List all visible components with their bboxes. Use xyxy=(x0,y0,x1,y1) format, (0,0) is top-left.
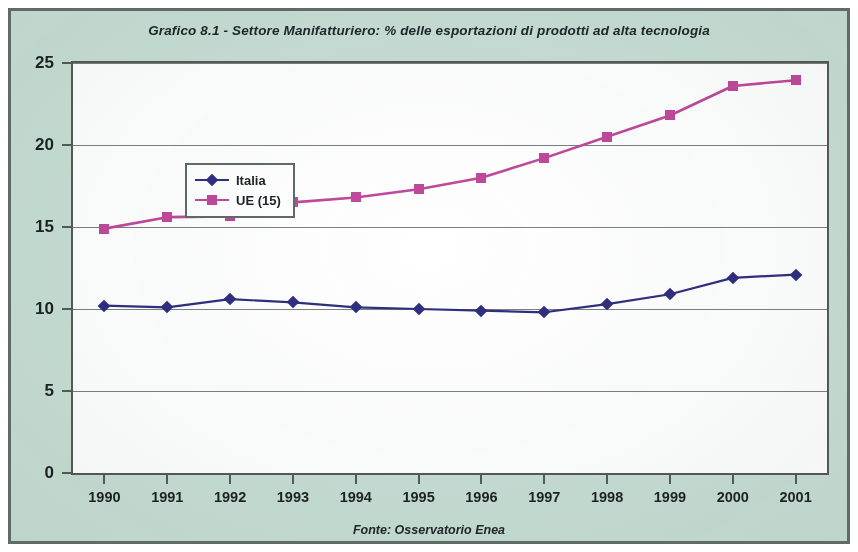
x-tick-label-1999: 1999 xyxy=(654,489,686,505)
y-tick-label-5: 5 xyxy=(8,381,54,401)
y-tick-mark-25 xyxy=(62,62,71,64)
data-point-ue-15-2001 xyxy=(791,75,801,85)
data-point-ue-15-1997 xyxy=(539,153,549,163)
square-marker-icon xyxy=(207,195,217,205)
series-line-italia xyxy=(104,275,795,313)
data-point-ue-15-1996 xyxy=(476,173,486,183)
y-tick-label-10: 10 xyxy=(8,299,54,319)
x-axis: 1990199119921993199419951996199719981999… xyxy=(71,475,829,521)
data-point-ue-15-2000 xyxy=(728,81,738,91)
data-point-ue-15-1990 xyxy=(99,224,109,234)
x-tick-label-1995: 1995 xyxy=(402,489,434,505)
x-tick-label-1992: 1992 xyxy=(214,489,246,505)
y-tick-mark-0 xyxy=(62,472,71,474)
legend-item-ue15[interactable]: UE (15) xyxy=(195,190,281,210)
data-point-ue-15-1991 xyxy=(162,212,172,222)
x-tick-mark-1994 xyxy=(355,475,357,484)
x-tick-label-2000: 2000 xyxy=(717,489,749,505)
data-point-ue-15-1994 xyxy=(351,192,361,202)
plot-inner xyxy=(73,63,827,473)
x-tick-mark-1998 xyxy=(606,475,608,484)
x-tick-mark-1996 xyxy=(480,475,482,484)
x-tick-mark-1993 xyxy=(292,475,294,484)
legend-label-ue15: UE (15) xyxy=(236,193,281,208)
y-tick-label-20: 20 xyxy=(8,135,54,155)
x-tick-label-1994: 1994 xyxy=(340,489,372,505)
y-tick-label-15: 15 xyxy=(8,217,54,237)
x-tick-mark-1995 xyxy=(418,475,420,484)
legend-item-italia[interactable]: Italia xyxy=(195,170,281,190)
source-note: Fonte: Osservatorio Enea xyxy=(11,523,847,537)
y-tick-mark-10 xyxy=(62,308,71,310)
series-lines xyxy=(73,63,827,473)
x-tick-label-2001: 2001 xyxy=(779,489,811,505)
x-tick-mark-1990 xyxy=(103,475,105,484)
plot-area: Italia UE (15) xyxy=(71,61,829,475)
diamond-marker-icon xyxy=(206,174,219,187)
x-tick-mark-1997 xyxy=(543,475,545,484)
x-tick-mark-2001 xyxy=(795,475,797,484)
x-tick-label-1997: 1997 xyxy=(528,489,560,505)
chart-title: Grafico 8.1 - Settore Manifatturiero: % … xyxy=(11,23,847,38)
legend-swatch-ue15 xyxy=(195,193,229,207)
x-tick-label-1998: 1998 xyxy=(591,489,623,505)
y-tick-mark-20 xyxy=(62,144,71,146)
screenshot-root: Grafico 8.1 - Settore Manifatturiero: % … xyxy=(0,0,858,552)
chart-panel: Grafico 8.1 - Settore Manifatturiero: % … xyxy=(8,8,850,544)
x-tick-label-1990: 1990 xyxy=(88,489,120,505)
x-tick-label-1993: 1993 xyxy=(277,489,309,505)
y-tick-label-25: 25 xyxy=(8,53,54,73)
data-point-ue-15-1999 xyxy=(665,110,675,120)
y-tick-mark-5 xyxy=(62,390,71,392)
legend-label-italia: Italia xyxy=(236,173,266,188)
x-tick-label-1996: 1996 xyxy=(465,489,497,505)
x-tick-mark-1991 xyxy=(166,475,168,484)
x-tick-mark-1992 xyxy=(229,475,231,484)
x-tick-mark-1999 xyxy=(669,475,671,484)
data-point-ue-15-1998 xyxy=(602,132,612,142)
data-point-ue-15-1995 xyxy=(414,184,424,194)
x-tick-mark-2000 xyxy=(732,475,734,484)
x-tick-label-1991: 1991 xyxy=(151,489,183,505)
legend-swatch-italia xyxy=(195,173,229,187)
y-tick-label-0: 0 xyxy=(8,463,54,483)
chart-legend: Italia UE (15) xyxy=(185,163,295,218)
y-tick-mark-15 xyxy=(62,226,71,228)
